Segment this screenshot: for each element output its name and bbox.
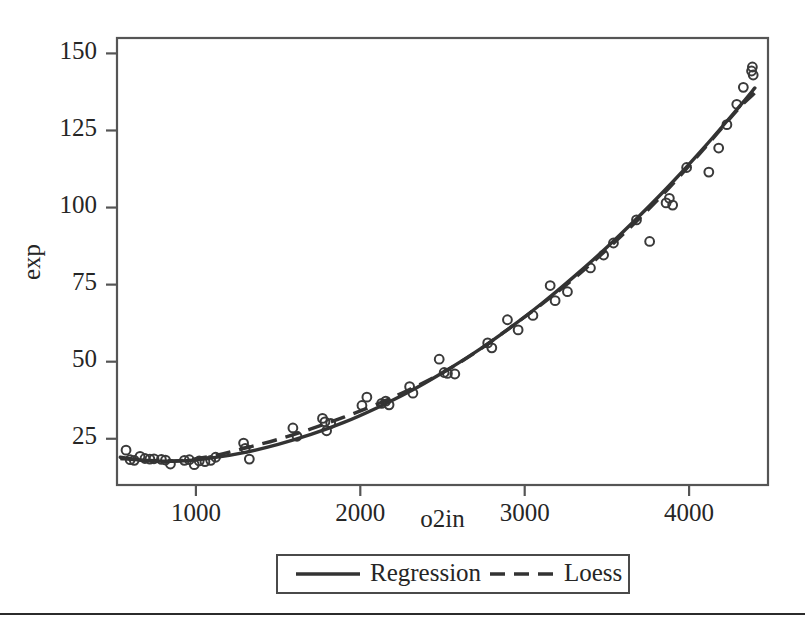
data-point-marker (503, 315, 512, 324)
loess-line (120, 93, 755, 461)
data-point-marker (551, 296, 560, 305)
data-point-marker (122, 446, 131, 455)
data-point-marker (435, 355, 444, 364)
y-axis-ticks (106, 53, 117, 438)
y-tick-label: 75 (72, 268, 97, 295)
data-point-marker (362, 393, 371, 402)
y-axis-tick-labels: 255075100125150 (60, 37, 98, 449)
data-point-marker (714, 144, 723, 153)
legend-label-loess: Loess (564, 559, 622, 586)
x-tick-label: 3000 (500, 499, 550, 526)
legend-label-regression: Regression (370, 559, 482, 586)
data-point-marker (514, 326, 523, 335)
figure-container: 255075100125150 1000200030004000 exp o2i… (0, 0, 805, 623)
y-tick-label: 25 (72, 422, 97, 449)
x-tick-label: 1000 (171, 499, 221, 526)
page-bottom-rule (0, 613, 805, 615)
y-tick-label: 150 (60, 37, 98, 64)
data-point-marker (563, 287, 572, 296)
y-tick-label: 100 (60, 191, 98, 218)
regression-line (120, 88, 755, 461)
data-point-marker (645, 237, 654, 246)
x-axis-title: o2in (420, 505, 465, 532)
chart-legend: Regression Loess (277, 555, 629, 593)
data-point-marker (739, 83, 748, 92)
regression-loess-scatter-chart: 255075100125150 1000200030004000 exp o2i… (0, 0, 805, 623)
data-point-marker (245, 455, 254, 464)
data-point-marker (704, 168, 713, 177)
y-tick-label: 125 (60, 114, 98, 141)
data-point-marker (546, 281, 555, 290)
x-tick-label: 2000 (335, 499, 385, 526)
x-tick-label: 4000 (664, 499, 714, 526)
y-axis-title: exp (18, 244, 45, 280)
x-axis-ticks (196, 485, 689, 496)
y-tick-label: 50 (72, 345, 97, 372)
plot-frame (117, 38, 768, 485)
scatter-data-points (122, 63, 758, 469)
